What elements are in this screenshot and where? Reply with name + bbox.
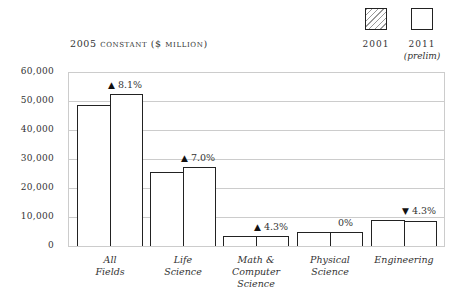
change-value: 4.3% — [412, 205, 436, 216]
triangle-up-icon: ▲ — [181, 153, 188, 163]
x-category-label: Math &ComputerScience — [216, 254, 296, 290]
change-annotation: ▲4.3% — [254, 221, 288, 232]
legend-swatch-2001 — [365, 8, 387, 30]
x-category-label: PhysicalScience — [290, 254, 370, 278]
legend-swatch-2011 — [411, 8, 433, 30]
ytick-label: 20,000 — [0, 182, 54, 192]
change-value: 7.0% — [191, 152, 215, 163]
legend-label-2011: 2011 — [397, 39, 447, 49]
change-annotation: ▲8.1% — [108, 79, 142, 90]
change-value: 8.1% — [118, 79, 142, 90]
change-value: 0% — [338, 217, 353, 228]
change-annotation: ▼4.3% — [402, 205, 436, 216]
ytick-label: 10,000 — [0, 211, 54, 221]
legend-sublabel-2011: (prelim) — [397, 51, 447, 61]
bar-2001 — [150, 172, 184, 246]
bar-2001 — [297, 232, 331, 246]
triangle-up-icon: ▲ — [108, 80, 115, 90]
bar-2011 — [183, 167, 216, 246]
bar-2011 — [110, 94, 143, 246]
chart-title: 2005 constant ($ million) — [70, 38, 208, 49]
x-category-label: Engineering — [364, 254, 444, 266]
bar-2001 — [77, 105, 111, 246]
change-annotation: ▲7.0% — [181, 152, 215, 163]
bar-2001 — [223, 236, 257, 246]
x-category-label: AllFields — [70, 254, 150, 278]
bar-2011 — [330, 232, 363, 246]
change-value: 4.3% — [264, 221, 288, 232]
ytick-label: 30,000 — [0, 153, 54, 163]
x-category-label: LifeScience — [143, 254, 223, 278]
change-annotation: 0% — [338, 217, 353, 228]
ytick-label: 0 — [0, 240, 54, 250]
triangle-up-icon: ▲ — [254, 222, 261, 232]
triangle-down-icon: ▼ — [402, 206, 409, 216]
ytick-label: 60,000 — [0, 66, 54, 76]
bar-2001 — [371, 220, 405, 246]
ytick-label: 50,000 — [0, 95, 54, 105]
x-axis-baseline — [68, 246, 445, 247]
bar-2011 — [256, 236, 289, 246]
legend-label-2001: 2001 — [351, 39, 401, 49]
ytick-label: 40,000 — [0, 124, 54, 134]
bar-2011 — [404, 221, 437, 246]
